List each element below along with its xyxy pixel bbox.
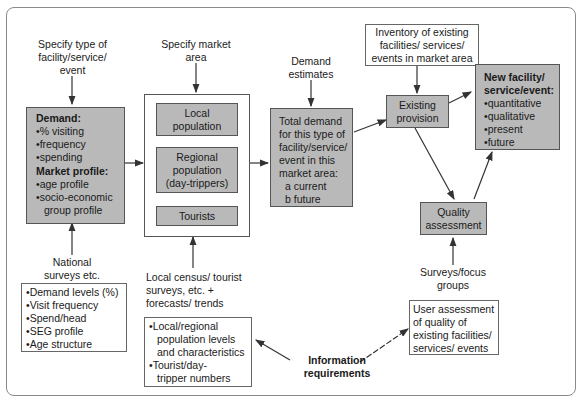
local-item: Tourist/day- [149,359,251,372]
national-item: Visit frequency [26,299,126,312]
new-facility-heading: New facility/ service/event: [484,71,559,97]
profile-item: group profile [36,204,124,217]
total-demand-line: facility/service/ [279,141,352,154]
specify-type-label: Specify type of facility/service/ event [20,38,125,77]
total-demand-line: for this type of [279,128,352,141]
local-item: Local/regional [149,320,251,333]
new-facility-item: present [484,123,559,136]
local-data-box: Local/regional population levels and cha… [144,317,252,387]
inventory-box: Inventory of existing facilities/ servic… [365,24,479,66]
demand-estimates-label: Demand estimates [270,55,352,81]
local-item: and characteristics [149,346,251,359]
new-facility-item: quantitative [484,97,559,110]
new-facility-item: future [484,136,559,149]
total-demand-future: b future [279,193,352,206]
local-census-label: Local census/ tourist surveys, etc. + fo… [146,271,270,310]
total-demand-box: Total demand for this type of facility/s… [270,108,353,207]
total-demand-line: market area: [279,167,352,180]
user-assessment-box: User assessment of quality of existing f… [409,300,499,355]
total-demand-line: Total demand [279,115,352,128]
market-profile-heading: Market profile: [36,165,124,178]
local-item: population levels [149,333,251,346]
local-item: tripper numbers [149,372,251,385]
national-item: SEG profile [26,325,126,338]
national-item: Demand levels (%) [26,286,126,299]
national-item: Spend/head [26,312,126,325]
new-facility-box: New facility/ service/event: quantitativ… [475,64,560,150]
local-population-box: Local population [156,103,238,136]
quality-assessment-box: Quality assessment [420,202,487,235]
profile-item: age profile [36,178,124,191]
national-surveys-label: National surveys etc. [22,256,122,282]
total-demand-line: event in this [279,154,352,167]
demand-item: spending [36,151,124,164]
information-requirements-label: Information requirements [282,354,392,380]
national-item: Age structure [26,338,126,351]
existing-provision-box: Existing provision [386,95,449,128]
profile-item: socio-economic [36,191,124,204]
tourists-box: Tourists [156,206,238,226]
new-facility-item: qualitative [484,110,559,123]
demand-item: frequency [36,138,124,151]
regional-population-box: Regional population (day-trippers) [156,147,238,193]
demand-item: % visiting [36,125,124,138]
national-data-box: Demand levels (%) Visit frequency Spend/… [21,283,127,352]
demand-box: Demand: % visiting frequency spending Ma… [26,107,125,224]
total-demand-current: a current [279,180,352,193]
surveys-focus-label: Surveys/focus groups [410,266,496,292]
specify-market-label: Specify market area [148,38,244,64]
demand-heading: Demand: [36,112,124,125]
